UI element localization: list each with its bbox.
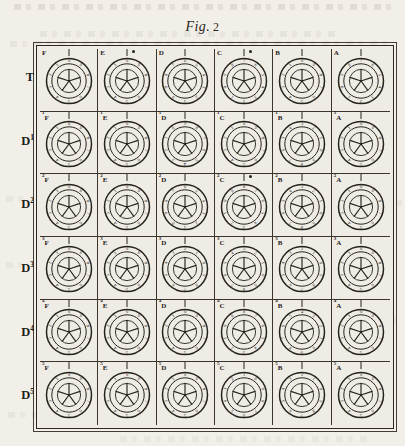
wheel-cell-label: 2A <box>334 175 342 184</box>
wheel-cell[interactable]: 1E0987654321 <box>98 112 156 175</box>
wheel-digit: 8 <box>143 387 149 391</box>
counter-wheel[interactable]: 0987654321 <box>103 245 151 293</box>
wheel-digit: 1 <box>311 250 316 255</box>
counter-wheel[interactable]: 0987654321 <box>45 120 93 168</box>
wheel-cell[interactable]: 2D6543210987 <box>157 174 215 237</box>
counter-wheel[interactable]: 7654321098 <box>220 57 268 105</box>
counter-wheel[interactable]: 0987654321 <box>103 120 151 168</box>
pointer-tick-icon <box>360 237 361 244</box>
wheel-cell[interactable]: 1C0987654321 <box>215 112 273 175</box>
wheel-cell[interactable]: 5C1098765432 <box>215 362 273 425</box>
wheel-digit: 1 <box>318 199 323 203</box>
counter-wheel[interactable]: 0987654321 <box>103 183 151 231</box>
wheel-cell[interactable]: F0987654321 <box>40 49 98 112</box>
wheel-digit: 2 <box>230 220 235 225</box>
counter-wheel[interactable]: 3210987654 <box>278 120 326 168</box>
wheel-cell[interactable]: 3F0987654321 <box>40 237 98 300</box>
counter-wheel[interactable]: 0987654321 <box>103 371 151 419</box>
wheel-cell[interactable]: 4E0987654321 <box>98 300 156 363</box>
wheel-digit: 5 <box>280 273 286 277</box>
wheel-cell[interactable]: 2A0987654321 <box>332 174 390 237</box>
wheel-digit: 8 <box>85 261 91 265</box>
wheel-cell[interactable]: 4F0987654321 <box>40 300 98 363</box>
counter-wheel[interactable]: 0987654321 <box>337 371 385 419</box>
counter-wheel[interactable]: 0987654321 <box>45 371 93 419</box>
wheel-cell[interactable]: D6543210987 <box>157 49 215 112</box>
counter-wheel[interactable]: 0987654321 <box>45 183 93 231</box>
counter-wheel[interactable]: 0987654321 <box>337 245 385 293</box>
wheel-cell[interactable]: 4B4321098765 <box>273 300 331 363</box>
pointer-tick-icon <box>185 300 186 307</box>
wheel-digit: 1 <box>113 62 118 67</box>
wheel-digit: 8 <box>377 387 383 391</box>
counter-wheel[interactable]: 0987654321 <box>45 308 93 356</box>
counter-wheel[interactable]: 2109876543 <box>278 245 326 293</box>
wheel-cell[interactable]: 2C8765432109 <box>215 174 273 237</box>
pointer-tick-icon <box>360 112 361 119</box>
wheel-cell[interactable]: 3D2109876543 <box>157 237 215 300</box>
wheel-digit: 2 <box>164 324 169 328</box>
wheel-cell[interactable]: 2E0987654321 <box>98 174 156 237</box>
counter-wheel[interactable]: 0987654321 <box>45 245 93 293</box>
counter-wheel[interactable]: 8765432109 <box>220 183 268 231</box>
wheel-cell[interactable]: 2B3210987654 <box>273 174 331 237</box>
counter-wheel[interactable]: 0987654321 <box>103 57 151 105</box>
wheel-cell[interactable]: 4C8765432109 <box>215 300 273 363</box>
counter-wheel[interactable]: 0987654321 <box>161 308 209 356</box>
wheel-cell[interactable]: 3A0987654321 <box>332 237 390 300</box>
counter-wheel[interactable]: 0987654321 <box>337 120 385 168</box>
counter-wheel[interactable]: 4321098765 <box>278 308 326 356</box>
wheel-digit: 1 <box>184 224 186 229</box>
counter-wheel[interactable]: 2109876543 <box>161 245 209 293</box>
wheel-cell[interactable]: C7654321098 <box>215 49 273 112</box>
wheel-cell[interactable]: 1A0987654321 <box>332 112 390 175</box>
counter-wheel[interactable]: 3210987654 <box>220 245 268 293</box>
row-label: D3 <box>8 237 36 301</box>
wheel-cell-label: 2B <box>275 175 282 184</box>
counter-wheel[interactable]: 0987654321 <box>45 57 93 105</box>
wheel-digit: 1 <box>113 376 118 381</box>
counter-wheel[interactable]: 8765432109 <box>220 308 268 356</box>
wheel-cell[interactable]: 3E0987654321 <box>98 237 156 300</box>
counter-wheel[interactable]: 3210987654 <box>278 183 326 231</box>
counter-wheel[interactable]: 0987654321 <box>220 120 268 168</box>
wheel-digit: 1 <box>347 313 352 318</box>
counter-wheel[interactable]: 0987654321 <box>278 57 326 105</box>
wheel-cell[interactable]: E0987654321 <box>98 49 156 112</box>
counter-wheel[interactable]: 2109876543 <box>278 371 326 419</box>
pointer-tick-icon <box>301 300 302 307</box>
counter-wheel[interactable]: 0987654321 <box>337 308 385 356</box>
wheel-cell[interactable]: 3B2109876543 <box>273 237 331 300</box>
row-label: T <box>8 46 36 110</box>
wheel-cell[interactable]: B0987654321 <box>273 49 331 112</box>
wheel-cell[interactable]: 5A0987654321 <box>332 362 390 425</box>
counter-wheel[interactable]: 0987654321 <box>337 183 385 231</box>
wheel-cell[interactable]: 5B2109876543 <box>273 362 331 425</box>
pointer-tick-icon <box>68 300 69 307</box>
wheel-cell[interactable]: 1D9876543210 <box>157 112 215 175</box>
wheel-cell[interactable]: 1B3210987654 <box>273 112 331 175</box>
pointer-tick-icon <box>301 362 302 369</box>
wheel-cell[interactable]: 5F0987654321 <box>40 362 98 425</box>
wheel-digit: 3 <box>47 273 53 277</box>
counter-wheel[interactable]: 6543210987 <box>161 183 209 231</box>
wheel-digit: 6 <box>280 210 286 214</box>
wheel-cell[interactable]: A7654321098 <box>332 49 390 112</box>
counter-wheel[interactable]: 0987654321 <box>103 308 151 356</box>
wheel-cell[interactable]: 2F0987654321 <box>40 174 98 237</box>
counter-wheel[interactable]: 6543210987 <box>161 57 209 105</box>
wheel-digit: 6 <box>260 199 266 203</box>
counter-wheel[interactable]: 0987654321 <box>161 371 209 419</box>
wheel-cell[interactable]: 3C3210987654 <box>215 237 273 300</box>
counter-wheel[interactable]: 1098765432 <box>220 371 268 419</box>
wheel-digit: 3 <box>105 273 111 277</box>
wheel-digit: 8 <box>377 199 383 203</box>
wheel-cell[interactable]: 5D0987654321 <box>157 362 215 425</box>
wheel-cell[interactable]: 5E0987654321 <box>98 362 156 425</box>
wheel-cell[interactable]: 1F0987654321 <box>40 112 98 175</box>
wheel-cell[interactable]: 4D0987654321 <box>157 300 215 363</box>
wheel-cell[interactable]: 4A0987654321 <box>332 300 390 363</box>
pointer-tick-icon <box>68 174 69 181</box>
counter-wheel[interactable]: 7654321098 <box>337 57 385 105</box>
counter-wheel[interactable]: 9876543210 <box>161 120 209 168</box>
